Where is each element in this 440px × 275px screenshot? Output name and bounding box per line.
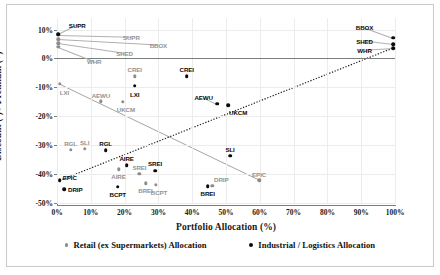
y-axis-tick-mark (54, 174, 57, 175)
data-point-bbox[interactable] (391, 36, 395, 40)
gridline-horizontal (57, 203, 395, 204)
legend-marker-industrial-icon (249, 243, 254, 248)
y-axis-tick-mark (54, 116, 57, 117)
x-axis-tick-label: 10% (83, 208, 98, 217)
data-label-rgl: RGL (64, 140, 77, 147)
data-label-ukcm: UKCM (117, 106, 135, 113)
data-point-shed[interactable] (391, 42, 395, 46)
x-axis-tick-label: 20% (117, 208, 132, 217)
data-label-shed: SHED (356, 37, 373, 44)
legend-label-industrial: Industrial / Logistics Allocation (258, 240, 375, 250)
x-axis-tick-label: 80% (320, 208, 335, 217)
y-axis-tick-label: -30% (14, 141, 53, 150)
gridline-vertical (327, 18, 328, 203)
data-label-srei: SREI (132, 164, 146, 171)
y-axis-tick-mark (54, 30, 57, 31)
data-label-aewu: AEWU (194, 94, 213, 101)
y-axis-tick-label: -40% (14, 170, 53, 179)
gridline-horizontal (57, 87, 395, 88)
x-axis-tick-label: 40% (185, 208, 200, 217)
data-label-crei: CREI (128, 66, 142, 73)
data-label-sli: SLI (80, 139, 89, 146)
x-axis-tick-label: 90% (354, 208, 369, 217)
data-label-supr: SUPR (69, 21, 86, 28)
legend-item-retail: Retail (ex Supermarkets) Allocation (65, 240, 207, 250)
y-axis-title: Discount (-) / Premium (+) (0, 51, 3, 161)
y-axis-tick-label: 10% (14, 25, 53, 34)
data-label-drip: DRIP (214, 175, 228, 182)
gridline-vertical (294, 18, 295, 203)
y-axis-tick-mark (54, 87, 57, 88)
data-point-drip[interactable] (63, 187, 67, 191)
data-point-supr[interactable] (57, 32, 61, 36)
data-point-lxi[interactable] (133, 84, 137, 88)
data-point-aewu[interactable] (215, 102, 219, 106)
y-axis-tick-label: -50% (14, 199, 53, 208)
x-axis-line (57, 205, 396, 206)
x-axis-tick-label: 30% (151, 208, 166, 217)
gridline-vertical (91, 18, 92, 203)
data-label-bcpt: BCPT (110, 190, 126, 197)
x-axis-tick-label: 70% (286, 208, 301, 217)
legend-item-industrial: Industrial / Logistics Allocation (249, 240, 376, 250)
data-label-brei: BREI (201, 190, 215, 197)
data-point-epic[interactable] (58, 179, 62, 183)
data-label-supr: SUPR (123, 33, 140, 40)
data-label-bcpt: BCPT (151, 189, 167, 196)
x-axis-tick-label: 50% (219, 208, 234, 217)
data-point-crei[interactable] (185, 75, 189, 79)
chart-legend: Retail (ex Supermarkets) Allocation Indu… (0, 240, 440, 250)
data-label-drip: DRIP (68, 186, 82, 193)
data-point-bcpt[interactable] (116, 185, 120, 189)
x-axis-tick-label: 60% (252, 208, 267, 217)
data-point-aire[interactable] (125, 164, 129, 168)
x-axis-tick-label: 100% (386, 208, 405, 217)
data-label-srei: SREI (148, 160, 162, 167)
plot-area: SUPRBBOXSHEDWHRLXIAEWUUKCMCREIRGLSLIAIRE… (57, 18, 395, 203)
data-label-whr: WHR (357, 46, 371, 53)
data-label-rgl: RGL (99, 139, 112, 146)
data-label-ukcm: UKCM (229, 109, 247, 116)
y-axis-tick-label: -20% (14, 112, 53, 121)
gridline-vertical (395, 18, 396, 203)
x-axis-tick-label: 0% (51, 208, 62, 217)
gridline-horizontal (57, 116, 395, 117)
data-point-rgl[interactable] (104, 149, 108, 153)
data-label-lxi: LXI (60, 89, 69, 96)
data-label-lxi: LXI (130, 90, 139, 97)
gridline-horizontal (57, 30, 395, 31)
zero-reference-line (57, 58, 395, 59)
gridline-vertical (192, 18, 193, 203)
data-label-aire: AIRE (111, 172, 125, 179)
data-point-ukcm[interactable] (226, 104, 230, 108)
y-axis-tick-mark (54, 58, 57, 59)
data-point-brei[interactable] (206, 184, 210, 188)
data-label-shed: SHED (116, 50, 133, 57)
y-axis-tick-label: -10% (14, 83, 53, 92)
data-label-epic: EPIC (63, 173, 77, 180)
data-label-aire: AIRE (119, 155, 133, 162)
chart-root: Discount (-) / Premium (+) Portfolio All… (0, 0, 440, 275)
data-label-bbox: BBOX (150, 41, 167, 48)
y-axis-tick-label: 0% (14, 54, 53, 63)
data-label-crei: CREI (180, 65, 194, 72)
x-axis-title: Portfolio Allocation (%) (176, 222, 276, 232)
data-label-bbox: BBOX (356, 24, 373, 31)
data-label-sli: SLI (225, 145, 234, 152)
data-point-whr[interactable] (391, 46, 395, 50)
data-label-epic: EPIC (252, 170, 266, 177)
legend-label-retail: Retail (ex Supermarkets) Allocation (73, 240, 206, 250)
y-axis-tick-mark (54, 203, 57, 204)
y-axis-tick-mark (54, 145, 57, 146)
legend-marker-retail-icon (65, 243, 69, 247)
data-label-whr: WHR (87, 58, 101, 65)
data-label-aewu: AEWU (92, 91, 111, 98)
data-point-srei[interactable] (153, 169, 157, 173)
data-point-sli[interactable] (228, 154, 232, 158)
